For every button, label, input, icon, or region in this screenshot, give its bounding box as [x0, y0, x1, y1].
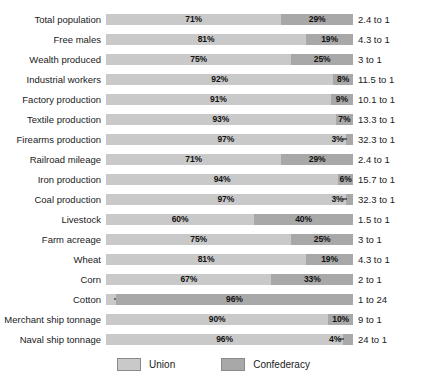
chart-row: Naval ship tonnage96%4%24 to 1: [0, 329, 427, 349]
bar-segment-union: 4%: [106, 294, 116, 305]
bar-segment-confederacy: 9%: [331, 94, 353, 105]
label-leader-line: [342, 139, 347, 140]
legend-swatch-icon: [117, 358, 141, 371]
row-category-label: Free males: [0, 34, 106, 45]
stacked-bar: 75%25%: [106, 234, 353, 245]
row-category-label: Industrial workers: [0, 74, 106, 85]
bar-segment-confederacy-value: 40%: [295, 215, 312, 224]
bar-segment-confederacy-value: 10%: [332, 315, 349, 324]
bar-segment-confederacy-value: 33%: [304, 275, 321, 284]
chart-row: Wheat81%19%4.3 to 1: [0, 249, 427, 269]
row-category-label: Corn: [0, 274, 106, 285]
bar-segment-union: 90%: [106, 314, 328, 325]
bar-segment-union: 81%: [106, 34, 306, 45]
legend-item-union[interactable]: Union: [117, 358, 175, 371]
stacked-bar: 92%8%: [106, 74, 353, 85]
chart-row: Industrial workers92%8%11.5 to 1: [0, 69, 427, 89]
bar-segment-union: 71%: [106, 14, 281, 25]
bar-segment-union-value: 94%: [214, 175, 231, 184]
row-category-label: Wheat: [0, 254, 106, 265]
bar-segment-union-value: 60%: [172, 215, 189, 224]
chart-row: Corn67%33%2 to 1: [0, 269, 427, 289]
bar-segment-union-value: 92%: [211, 75, 228, 84]
stacked-bar: 4%96%: [106, 294, 353, 305]
chart-row: Wealth produced75%25%3 to 1: [0, 49, 427, 69]
bar-segment-confederacy-value: 19%: [321, 35, 338, 44]
bar-segment-union: 60%: [106, 214, 254, 225]
row-ratio-label: 15.7 to 1: [353, 174, 395, 185]
chart-row: Farm acreage75%25%3 to 1: [0, 229, 427, 249]
legend-label: Confederacy: [253, 359, 310, 370]
row-category-label: Railroad mileage: [0, 154, 106, 165]
row-category-label: Coal production: [0, 194, 106, 205]
row-ratio-label: 9 to 1: [353, 314, 382, 325]
bar-segment-union-value: 71%: [185, 155, 202, 164]
row-category-label: Naval ship tonnage: [0, 334, 106, 345]
stacked-bar-chart: Total population71%29%2.4 to 1Free males…: [0, 0, 427, 392]
bar-segment-union: 75%: [106, 234, 291, 245]
bar-segment-union-value: 96%: [216, 335, 233, 344]
chart-row: Textile production93%7%13.3 to 1: [0, 109, 427, 129]
bar-segment-confederacy: 8%: [333, 74, 353, 85]
row-ratio-label: 4.3 to 1: [353, 254, 390, 265]
bar-segment-confederacy-value: 6%: [340, 175, 352, 184]
bar-segment-confederacy: 96%: [116, 294, 353, 305]
bar-segment-union-value: 67%: [180, 275, 197, 284]
bar-segment-confederacy: 29%: [281, 14, 353, 25]
chart-row: Coal production97%3%32.3 to 1: [0, 189, 427, 209]
legend-label: Union: [149, 359, 175, 370]
bar-segment-union: 97%: [106, 134, 346, 145]
row-category-label: Textile production: [0, 114, 106, 125]
row-ratio-label: 32.3 to 1: [353, 134, 395, 145]
row-category-label: Factory production: [0, 94, 106, 105]
row-category-label: Firearms production: [0, 134, 106, 145]
row-ratio-label: 2.4 to 1: [353, 154, 390, 165]
bar-segment-confederacy-value: 19%: [321, 255, 338, 264]
bar-segment-union: 81%: [106, 254, 306, 265]
bar-segment-confederacy-value: 29%: [309, 15, 326, 24]
stacked-bar: 96%4%: [106, 334, 353, 345]
row-ratio-label: 3 to 1: [353, 234, 382, 245]
bar-segment-union: 94%: [106, 174, 338, 185]
bar-segment-confederacy: 25%: [291, 234, 353, 245]
stacked-bar: 91%9%: [106, 94, 353, 105]
row-ratio-label: 13.3 to 1: [353, 114, 395, 125]
stacked-bar: 75%25%: [106, 54, 353, 65]
bar-segment-confederacy-value: 25%: [314, 235, 331, 244]
row-ratio-label: 24 to 1: [353, 334, 387, 345]
legend-item-confederacy[interactable]: Confederacy: [221, 358, 310, 371]
bar-segment-confederacy: 40%: [254, 214, 353, 225]
row-ratio-label: 1 to 24: [353, 294, 387, 305]
bar-segment-union-value: 93%: [212, 115, 229, 124]
row-category-label: Livestock: [0, 214, 106, 225]
chart-legend: UnionConfederacy: [0, 358, 427, 371]
label-leader-line: [342, 199, 347, 200]
row-ratio-label: 10.1 to 1: [353, 94, 395, 105]
chart-row: Free males81%19%4.3 to 1: [0, 29, 427, 49]
bar-segment-confederacy: 25%: [291, 54, 353, 65]
row-ratio-label: 3 to 1: [353, 54, 382, 65]
bar-segment-union-value: 81%: [198, 255, 215, 264]
row-ratio-label: 32.3 to 1: [353, 194, 395, 205]
bar-segment-confederacy: 3%: [346, 194, 353, 205]
chart-row: Total population71%29%2.4 to 1: [0, 9, 427, 29]
row-category-label: Iron production: [0, 174, 106, 185]
bar-segment-union-value: 71%: [185, 15, 202, 24]
chart-row: Iron production94%6%15.7 to 1: [0, 169, 427, 189]
stacked-bar: 71%29%: [106, 14, 353, 25]
bar-segment-union: 67%: [106, 274, 271, 285]
stacked-bar: 71%29%: [106, 154, 353, 165]
bar-segment-union-value: 75%: [190, 55, 207, 64]
bar-segment-union: 92%: [106, 74, 333, 85]
row-ratio-label: 2 to 1: [353, 274, 382, 285]
bar-segment-confederacy: 4%: [343, 334, 353, 345]
bar-segment-union-value: 97%: [217, 135, 234, 144]
bar-segment-confederacy-value: 96%: [226, 295, 243, 304]
bar-segment-confederacy: 3%: [346, 134, 353, 145]
bar-segment-union-value: 97%: [217, 195, 234, 204]
bar-segment-confederacy: 7%: [336, 114, 353, 125]
bar-segment-confederacy: 6%: [338, 174, 353, 185]
chart-row: Firearms production97%3%32.3 to 1: [0, 129, 427, 149]
legend-swatch-icon: [221, 358, 245, 371]
bar-segment-union-value: 81%: [198, 35, 215, 44]
